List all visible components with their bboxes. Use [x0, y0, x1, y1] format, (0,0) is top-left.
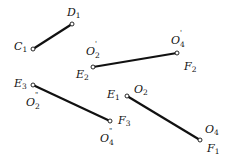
label-sub: 1: [115, 93, 120, 102]
label-base: O: [134, 83, 143, 96]
label-base: O: [205, 123, 214, 136]
label-o2-prime: O'2: [86, 46, 100, 57]
label-sub: 2: [35, 102, 40, 111]
label-base: F: [118, 114, 126, 127]
endpoint-icon: [108, 119, 112, 123]
label-base: E: [76, 68, 84, 81]
endpoint-icon: [175, 51, 179, 55]
label-base: O: [171, 34, 180, 47]
segment-c1d1: [33, 24, 72, 49]
label-sub: 3: [22, 82, 27, 91]
label-e1: E1: [107, 89, 120, 102]
label-base: E: [14, 77, 22, 90]
label-o2-double-prime: O"2: [26, 97, 40, 108]
label-base: D: [67, 6, 76, 19]
label-sub: 1: [215, 147, 220, 156]
label-sub: 4: [109, 138, 114, 147]
label-e2: E2: [76, 69, 89, 82]
label-base: O: [100, 132, 109, 145]
label-base: E: [107, 88, 115, 101]
label-sub: 2: [143, 88, 148, 97]
label-d1: D1: [67, 7, 81, 20]
label-sub: 2: [95, 51, 100, 60]
endpoint-icon: [91, 65, 95, 69]
label-sub: 1: [22, 45, 27, 54]
label-prime: ": [35, 92, 38, 99]
label-prime: ': [95, 41, 97, 48]
label-o4: O4: [205, 124, 219, 137]
endpoint-icon: [70, 22, 74, 26]
segment-e3f3: [33, 85, 110, 121]
label-c1: C1: [14, 41, 27, 54]
label-f1: F1: [207, 143, 219, 156]
label-sub: 2: [192, 65, 197, 74]
label-sub: 2: [84, 73, 89, 82]
label-base: O: [26, 96, 35, 109]
label-f3: F3: [118, 115, 130, 128]
label-o4-prime: O'4: [171, 35, 185, 46]
label-e3: E3: [14, 78, 27, 91]
label-sub: 4: [180, 40, 185, 49]
diagram-canvas: [0, 0, 229, 164]
endpoint-icon: [31, 83, 35, 87]
label-o2: O2: [134, 84, 148, 97]
label-prime: ": [109, 128, 112, 135]
label-sub: 1: [76, 11, 81, 20]
label-base: F: [184, 60, 192, 73]
segment-e1f1: [127, 96, 200, 140]
label-sub: 4: [214, 128, 219, 137]
label-base: O: [86, 45, 95, 58]
endpoint-icon: [125, 94, 129, 98]
label-base: F: [207, 142, 215, 155]
endpoint-icon: [198, 138, 202, 142]
label-prime: ': [180, 30, 182, 37]
endpoint-icon: [31, 47, 35, 51]
label-f2: F2: [184, 61, 196, 74]
segment-e2f2: [93, 53, 177, 67]
label-sub: 3: [126, 119, 131, 128]
label-o4-double-prime: O"4: [100, 133, 114, 144]
